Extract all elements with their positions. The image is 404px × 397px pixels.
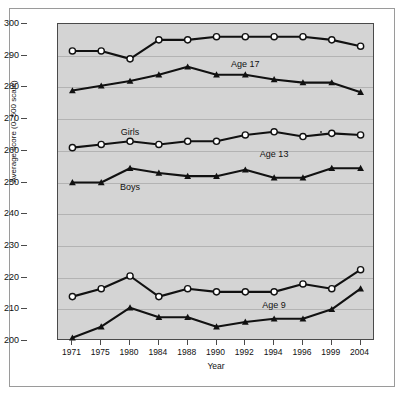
y-tick [21, 213, 27, 214]
y-tick-label: 220 [4, 272, 19, 282]
data-point-open-circle [242, 34, 248, 40]
data-point-open-circle [300, 34, 306, 40]
data-point-open-circle [300, 133, 306, 139]
x-tick-label: 1988 [177, 347, 196, 357]
y-tick-label: 270 [4, 113, 19, 123]
x-tick [216, 340, 217, 345]
y-tick-label: 210 [4, 303, 19, 313]
data-point-open-circle [242, 289, 248, 295]
y-tick [21, 245, 27, 246]
x-tick [360, 340, 361, 345]
data-point-open-circle [98, 48, 104, 54]
data-point-open-circle [127, 138, 133, 144]
y-tick-label: 280 [4, 81, 19, 91]
y-axis-title: Average score (0–500 scale) [9, 52, 18, 212]
data-point-open-circle [156, 294, 162, 300]
y-tick [21, 182, 27, 183]
data-point-open-circle [185, 286, 191, 292]
series-label-age-9: Age 9 [262, 300, 286, 310]
data-point-open-circle [271, 289, 277, 295]
data-point-open-circle [98, 141, 104, 147]
x-tick-label: 1975 [91, 347, 110, 357]
y-tick [21, 150, 27, 151]
data-point-filled-triangle [127, 304, 134, 310]
data-point-open-circle [127, 273, 133, 279]
series-label-girls: Girls [121, 127, 140, 137]
data-point-open-circle [98, 286, 104, 292]
data-point-open-circle [185, 138, 191, 144]
y-tick [21, 308, 27, 309]
data-point-open-circle [357, 43, 363, 49]
chart-figure: Age 17Age 13Age 9GirlsBoys Average score… [0, 0, 404, 397]
x-tick [331, 340, 332, 345]
data-point-open-circle [213, 138, 219, 144]
y-tick [21, 118, 27, 119]
data-point-open-circle [242, 132, 248, 138]
data-point-open-circle [69, 145, 75, 151]
x-tick [244, 340, 245, 345]
data-point-open-circle [300, 281, 306, 287]
x-tick-label: 1971 [62, 347, 81, 357]
x-tick-label: 1996 [292, 347, 311, 357]
data-point-open-circle [213, 34, 219, 40]
series-label-boys: Boys [120, 182, 140, 192]
y-axis: Average score (0–500 scale) 200210220230… [0, 0, 57, 341]
x-tick-label: 1984 [148, 347, 167, 357]
x-tick [129, 340, 130, 345]
y-tick-label: 200 [4, 335, 19, 345]
y-tick-label: 240 [4, 208, 19, 218]
x-tick [158, 340, 159, 345]
y-tick-label: 300 [4, 18, 19, 28]
data-point-open-circle [271, 34, 277, 40]
y-tick-label: 230 [4, 240, 19, 250]
data-point-open-circle [185, 37, 191, 43]
x-tick [302, 340, 303, 345]
data-point-open-circle [156, 37, 162, 43]
data-point-open-circle [69, 294, 75, 300]
data-point-open-circle [357, 132, 363, 138]
y-tick [21, 86, 27, 87]
x-tick-label: 1994 [264, 347, 283, 357]
x-tick-label: 1992 [235, 347, 254, 357]
x-tick-label: 2004 [350, 347, 369, 357]
chart-lines [58, 24, 375, 341]
y-tick-label: 260 [4, 145, 19, 155]
y-tick-label: 290 [4, 50, 19, 60]
x-tick-label: 1980 [120, 347, 139, 357]
data-point-open-circle [213, 289, 219, 295]
data-point-open-circle [329, 286, 335, 292]
series-label-age-13: Age 13 [260, 149, 289, 159]
data-point-filled-triangle [357, 285, 364, 291]
data-point-open-circle [69, 48, 75, 54]
data-point-open-circle [271, 129, 277, 135]
plot-area: Age 17Age 13Age 9GirlsBoys [57, 23, 374, 340]
x-tick-label: 1999 [321, 347, 340, 357]
x-axis: Year 19711975198019841988199019921994199… [57, 340, 375, 380]
y-tick [21, 23, 27, 24]
data-point-open-circle [357, 267, 363, 273]
x-tick [273, 340, 274, 345]
data-point-open-circle [329, 130, 335, 136]
x-axis-title: Year [57, 361, 375, 371]
x-tick [187, 340, 188, 345]
series-line [72, 67, 360, 92]
y-tick [21, 55, 27, 56]
x-tick [100, 340, 101, 345]
y-tick-label: 250 [4, 177, 19, 187]
data-point-open-circle [127, 56, 133, 62]
x-tick-label: 1990 [206, 347, 225, 357]
y-tick [21, 340, 27, 341]
series-line [72, 289, 360, 338]
stray-speck [320, 131, 322, 133]
data-point-open-circle [156, 141, 162, 147]
data-point-open-circle [329, 37, 335, 43]
x-tick [71, 340, 72, 345]
y-tick [21, 277, 27, 278]
series-label-age-17: Age 17 [231, 59, 260, 69]
